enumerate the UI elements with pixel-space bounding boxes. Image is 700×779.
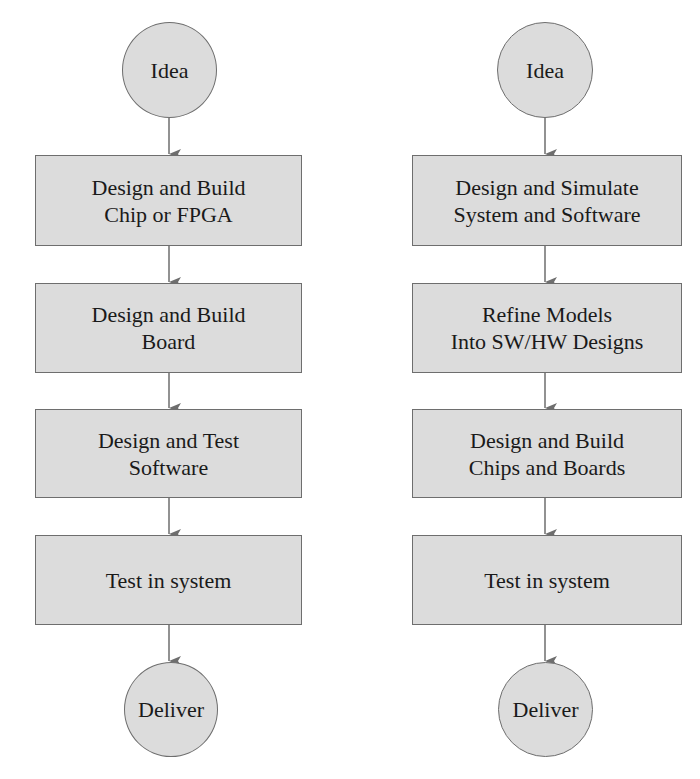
- node-label-line-1: Design and Build: [92, 301, 246, 328]
- right-end-node-deliver: Deliver: [498, 662, 593, 757]
- node-label-line-1: Design and Build: [92, 174, 246, 201]
- node-label: Idea: [151, 57, 189, 84]
- right-step-1-design-simulate: Design and Simulate System and Software: [412, 155, 682, 246]
- node-label-line-2: Software: [129, 454, 208, 481]
- node-label-line-2: Chips and Boards: [469, 454, 625, 481]
- node-label-line-1: Design and Build: [470, 427, 624, 454]
- node-label-line-2: Chip or FPGA: [104, 201, 232, 228]
- left-step-2-design-build-board: Design and Build Board: [35, 283, 302, 373]
- left-step-3-design-test-software: Design and Test Software: [35, 409, 302, 498]
- left-end-node-deliver: Deliver: [124, 662, 218, 757]
- node-label-line-1: Design and Simulate: [455, 174, 638, 201]
- node-label-line-2: Board: [142, 328, 196, 355]
- right-step-2-refine-models: Refine Models Into SW/HW Designs: [412, 283, 682, 373]
- right-step-3-design-build-chips-boards: Design and Build Chips and Boards: [412, 409, 682, 498]
- node-label: Idea: [526, 57, 564, 84]
- node-label: Deliver: [138, 696, 204, 723]
- node-label-line-1: Design and Test: [98, 427, 239, 454]
- left-start-node-idea: Idea: [122, 22, 217, 118]
- right-start-node-idea: Idea: [497, 22, 593, 118]
- node-label-line-1: Test in system: [484, 567, 610, 594]
- node-label-line-2: System and Software: [454, 201, 641, 228]
- flow-connectors: [0, 0, 700, 779]
- right-step-4-test-in-system: Test in system: [412, 535, 682, 625]
- node-label-line-1: Refine Models: [482, 301, 612, 328]
- node-label-line-2: Into SW/HW Designs: [451, 328, 644, 355]
- node-label-line-1: Test in system: [106, 567, 232, 594]
- left-step-4-test-in-system: Test in system: [35, 535, 302, 625]
- left-step-1-design-build-chip: Design and Build Chip or FPGA: [35, 155, 302, 246]
- node-label: Deliver: [513, 696, 579, 723]
